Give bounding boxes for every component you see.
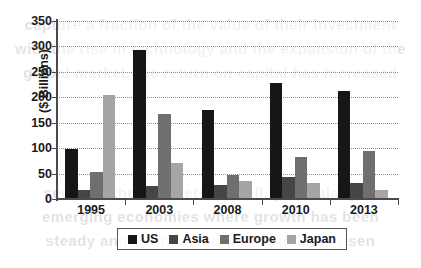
bar-europe-2013 <box>363 151 376 199</box>
bar-group <box>133 21 183 199</box>
legend-label: Europe <box>233 233 276 246</box>
y-tick-mark <box>52 174 57 175</box>
y-tick-label: 350 <box>18 15 52 28</box>
bar-chart-figure: ($ Billions) 350300250200150100500 19952… <box>0 0 421 268</box>
bar-europe-2010 <box>295 157 308 199</box>
x-label-2003: 2003 <box>145 203 173 217</box>
y-tick-mark <box>52 21 57 22</box>
x-label-2013: 2013 <box>350 203 378 217</box>
bar-group <box>202 21 252 199</box>
bar-asia-2008 <box>214 185 227 199</box>
bar-us-2003 <box>133 50 146 199</box>
legend-label: Asia <box>182 233 208 246</box>
y-tick-mark <box>52 97 57 98</box>
y-tick-label: 100 <box>18 142 52 155</box>
legend-item-europe[interactable]: Europe <box>220 233 276 246</box>
bar-group <box>65 21 115 199</box>
bar-europe-2008 <box>227 175 240 199</box>
bar-us-2010 <box>270 83 283 199</box>
bar-europe-2003 <box>158 114 171 199</box>
chart-legend: USAsiaEuropeJapan <box>117 228 347 250</box>
y-tick-label: 150 <box>18 116 52 129</box>
legend-swatch-us-icon <box>128 235 137 244</box>
y-tick-label: 50 <box>18 167 52 180</box>
x-tick-mark <box>398 199 399 205</box>
y-tick-label: 200 <box>18 91 52 104</box>
y-tick-mark <box>52 123 57 124</box>
bar-us-2013 <box>338 91 351 199</box>
bar-us-1995 <box>65 149 78 199</box>
x-axis-line <box>56 198 399 200</box>
y-tick-label: 300 <box>18 40 52 53</box>
bar-japan-1995 <box>103 95 116 199</box>
bar-japan-2008 <box>239 181 252 199</box>
legend-swatch-europe-icon <box>220 235 229 244</box>
legend-item-asia[interactable]: Asia <box>169 233 208 246</box>
bar-japan-2010 <box>307 183 320 199</box>
legend-item-us[interactable]: US <box>128 233 158 246</box>
x-label-2010: 2010 <box>282 203 310 217</box>
bar-group <box>270 21 320 199</box>
y-tick-mark <box>52 199 57 200</box>
legend-label: Japan <box>300 233 336 246</box>
bar-europe-1995 <box>90 172 103 199</box>
bar-japan-2003 <box>171 163 184 199</box>
y-tick-mark <box>52 148 57 149</box>
legend-swatch-japan-icon <box>287 235 296 244</box>
legend-item-japan[interactable]: Japan <box>287 233 336 246</box>
bar-asia-2013 <box>350 183 363 199</box>
bar-asia-2010 <box>282 177 295 199</box>
legend-swatch-asia-icon <box>169 235 178 244</box>
bar-us-2008 <box>202 110 215 199</box>
bar-group <box>338 21 388 199</box>
legend-label: US <box>141 233 158 246</box>
y-tick-label: 0 <box>18 193 52 206</box>
y-axis-tick-labels: 350300250200150100500 <box>14 21 52 199</box>
y-tick-label: 250 <box>18 66 52 79</box>
x-axis-category-labels: 19952003200820102013 <box>57 203 398 221</box>
y-tick-mark <box>52 46 57 47</box>
plot-area <box>57 21 398 199</box>
x-label-1995: 1995 <box>77 203 105 217</box>
x-label-2008: 2008 <box>214 203 242 217</box>
y-tick-mark <box>52 72 57 73</box>
